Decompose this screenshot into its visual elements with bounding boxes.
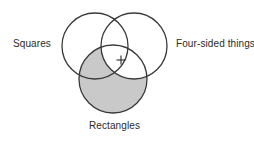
label-four-sided-things: Four-sided things	[176, 39, 254, 49]
label-squares: Squares	[13, 39, 51, 49]
label-rectangles: Rectangles	[89, 121, 140, 131]
venn-diagram-canvas: Squares Four-sided things Rectangles	[0, 0, 254, 141]
